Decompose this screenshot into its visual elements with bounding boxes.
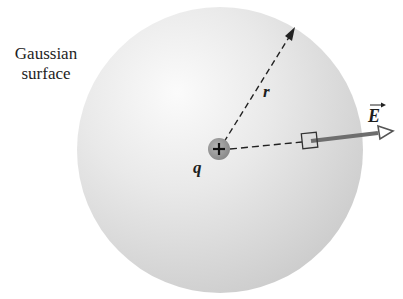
gaussian-surface-label: Gaussian surface — [6, 44, 86, 84]
gaussian-surface-label-line1: Gaussian — [6, 44, 86, 64]
gauss-law-figure: Gaussian surface q r E — [0, 0, 403, 299]
field-label: E — [368, 106, 380, 127]
charge-label: q — [193, 158, 202, 178]
vector-arrowhead-icon — [381, 103, 386, 108]
radius-label: r — [263, 82, 270, 102]
gaussian-surface-label-line2: surface — [6, 64, 86, 84]
field-arrowhead-icon — [378, 126, 393, 139]
